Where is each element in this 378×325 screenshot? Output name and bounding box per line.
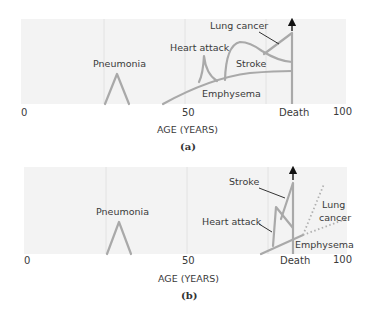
- tick-death: Death: [280, 255, 310, 266]
- tick-100: 100: [333, 254, 352, 265]
- tick-death: Death: [279, 107, 309, 118]
- tick-50: 50: [182, 107, 195, 118]
- panel-a-background: [21, 19, 346, 104]
- emphysema-label: Emphysema: [202, 88, 261, 99]
- tick-0: 0: [24, 255, 30, 266]
- tick-50: 50: [182, 255, 195, 266]
- tick-0: 0: [21, 107, 27, 118]
- panel-a: Pneumonia Heart attack Stroke Emphysema …: [21, 19, 352, 152]
- x-axis-title: AGE (YEARS): [158, 273, 219, 284]
- emphysema-label: Emphysema: [295, 239, 354, 250]
- heart-attack-label: Heart attack: [170, 42, 230, 53]
- figure: Pneumonia Heart attack Stroke Emphysema …: [0, 0, 378, 325]
- stroke-label: Stroke: [236, 58, 266, 69]
- lung-cancer-label-line1: Lung: [322, 199, 345, 210]
- panel-caption: (b): [181, 290, 197, 301]
- pneumonia-label: Pneumonia: [96, 206, 149, 217]
- tick-100: 100: [333, 106, 352, 117]
- heart-attack-label: Heart attack: [202, 216, 262, 227]
- lung-cancer-label: Lung cancer: [210, 20, 268, 31]
- x-axis-title: AGE (YEARS): [157, 124, 218, 135]
- lung-cancer-label-line2: cancer: [319, 212, 351, 223]
- panel-caption: (a): [180, 141, 196, 152]
- pneumonia-label: Pneumonia: [93, 58, 146, 69]
- panel-b: Pneumonia Stroke Heart attack Emphysema …: [24, 167, 354, 301]
- stroke-label: Stroke: [229, 176, 259, 187]
